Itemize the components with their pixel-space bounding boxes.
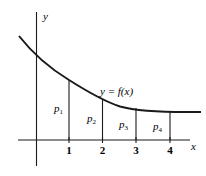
region-label-p2-base: p [87,112,93,124]
function-curve [19,36,201,112]
region-label-p3-index: 3 [125,124,129,132]
region-label-p4-base: p [153,120,159,132]
x-tick-label-2: 2 [97,145,109,156]
region-label-p4-index: 4 [159,126,163,134]
region-label-p4: p4 [153,121,162,132]
x-tick-label-4: 4 [164,145,176,156]
region-label-p1-index: 1 [60,108,64,116]
curve-equation-label: y = f(x) [100,86,133,97]
region-label-p2-index: 2 [93,118,97,126]
x-tick-label-1: 1 [63,145,75,156]
y-axis-label: y [43,11,48,22]
region-label-p3-base: p [119,118,125,130]
x-axis-label: x [191,141,196,152]
x-tick-label-3: 3 [130,145,142,156]
function-graph-figure: y x y = f(x) 1 2 3 4 p1 p2 p3 p4 [0,0,206,176]
region-label-p3: p3 [119,119,128,130]
region-label-p2: p2 [87,113,96,124]
region-label-p1-base: p [54,102,60,114]
region-label-p1: p1 [54,103,63,114]
